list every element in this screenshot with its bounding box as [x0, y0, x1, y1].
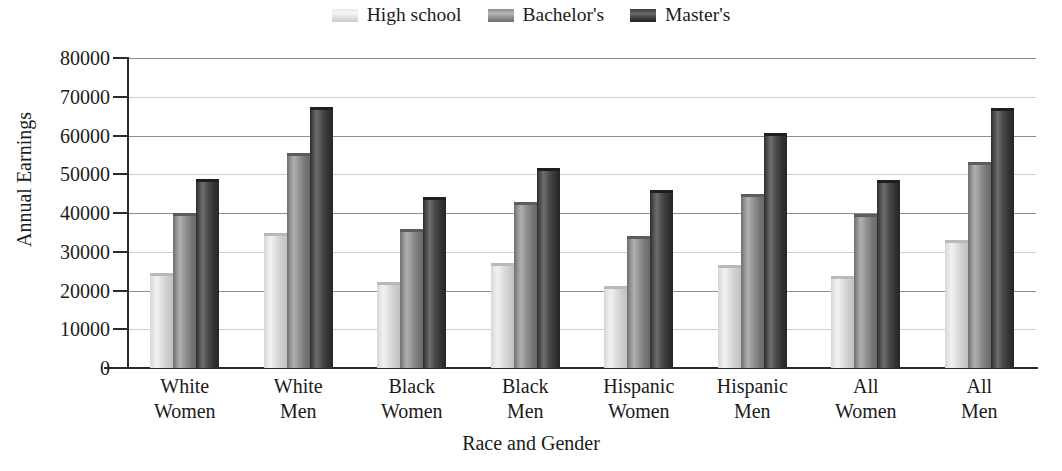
x-category-line1: White	[160, 375, 209, 397]
bar-cap	[945, 240, 968, 243]
legend-label-high-school: High school	[367, 5, 462, 25]
bar-cap	[150, 273, 173, 276]
bar-group	[923, 58, 1037, 368]
x-axis-title: Race and Gender	[0, 432, 1062, 455]
x-category-label: WhiteMen	[242, 374, 356, 430]
y-axis-title: Annual Earnings	[13, 70, 36, 290]
bar-chart: High school Bachelor's Master's 01000020…	[0, 0, 1062, 471]
bar-hs[interactable]	[491, 263, 514, 368]
legend-item-masters[interactable]: Master's	[630, 5, 730, 25]
x-category-line1: Hispanic	[603, 375, 674, 397]
x-category-label: BlackWomen	[355, 374, 469, 430]
x-category-line2: Men	[696, 399, 810, 424]
bar-group	[582, 58, 696, 368]
x-category-line1: Hispanic	[717, 375, 788, 397]
bar-cap	[854, 214, 877, 217]
bar-cap	[877, 180, 900, 183]
bar-group	[128, 58, 242, 368]
bar-ba[interactable]	[287, 153, 310, 368]
bar-cap	[196, 179, 219, 182]
bar-ma[interactable]	[196, 179, 219, 368]
x-category-line2: Women	[809, 399, 923, 424]
bar-ma[interactable]	[650, 190, 673, 368]
y-tick-mark-50000	[113, 173, 128, 175]
bar-hs[interactable]	[718, 265, 741, 368]
legend-swatch-bachelors	[488, 9, 514, 22]
x-category-label: AllWomen	[809, 374, 923, 430]
x-category-label: HispanicWomen	[582, 374, 696, 430]
bar-cap	[991, 108, 1014, 111]
legend-label-masters: Master's	[665, 5, 730, 25]
bar-ba[interactable]	[627, 236, 650, 368]
x-category-line2: Men	[469, 399, 583, 424]
x-category-line2: Men	[242, 399, 356, 424]
y-tick-mark-0	[113, 367, 128, 369]
x-category-line1: White	[274, 375, 323, 397]
bar-cap	[741, 194, 764, 197]
bar-cap	[718, 265, 741, 268]
bar-cap	[423, 197, 446, 200]
bar-cap	[514, 202, 537, 205]
bar-cap	[650, 190, 673, 193]
x-category-line2: Women	[355, 399, 469, 424]
bar-group	[696, 58, 810, 368]
bar-cap	[604, 286, 627, 289]
legend-item-high-school[interactable]: High school	[332, 5, 462, 25]
legend-label-bachelors: Bachelor's	[523, 5, 605, 25]
x-category-line2: Men	[923, 399, 1037, 424]
bar-ba[interactable]	[968, 162, 991, 368]
bar-ba[interactable]	[741, 194, 764, 368]
bar-ma[interactable]	[310, 107, 333, 368]
bar-hs[interactable]	[264, 233, 287, 368]
bar-hs[interactable]	[377, 282, 400, 368]
x-category-line1: All	[853, 375, 879, 397]
x-category-label: WhiteWomen	[128, 374, 242, 430]
bar-cap	[491, 263, 514, 266]
legend-item-bachelors[interactable]: Bachelor's	[488, 5, 605, 25]
bar-ba[interactable]	[400, 229, 423, 369]
y-tick-mark-40000	[113, 212, 128, 214]
y-tick-mark-60000	[113, 135, 128, 137]
chart-legend: High school Bachelor's Master's	[0, 2, 1062, 28]
bar-hs[interactable]	[604, 286, 627, 368]
bar-ma[interactable]	[423, 197, 446, 368]
bar-ba[interactable]	[173, 213, 196, 368]
bar-ma[interactable]	[877, 180, 900, 368]
x-axis-categories: WhiteWomenWhiteMenBlackWomenBlackMenHisp…	[128, 374, 1036, 430]
x-category-label: AllMen	[923, 374, 1037, 430]
bar-groups	[128, 58, 1036, 368]
x-category-label: BlackMen	[469, 374, 583, 430]
bar-cap	[537, 168, 560, 171]
bar-ma[interactable]	[537, 168, 560, 368]
y-tick-label-10000: 10000	[2, 319, 110, 339]
bar-cap	[831, 276, 854, 279]
bar-group	[469, 58, 583, 368]
y-tick-mark-70000	[113, 96, 128, 98]
bar-hs[interactable]	[945, 240, 968, 368]
x-category-line1: Black	[502, 375, 549, 397]
bar-ma[interactable]	[764, 133, 787, 368]
y-tick-label-80000: 80000	[2, 48, 110, 68]
bar-group	[242, 58, 356, 368]
bar-cap	[400, 229, 423, 232]
bar-hs[interactable]	[150, 273, 173, 368]
y-tick-label-0: 0	[2, 358, 110, 378]
x-category-line1: Black	[388, 375, 435, 397]
bar-cap	[264, 233, 287, 236]
x-category-line2: Women	[128, 399, 242, 424]
bar-hs[interactable]	[831, 276, 854, 368]
y-tick-mark-30000	[113, 251, 128, 253]
x-category-label: HispanicMen	[696, 374, 810, 430]
bar-ma[interactable]	[991, 108, 1014, 368]
bar-cap	[627, 236, 650, 239]
bar-cap	[287, 153, 310, 156]
bar-ba[interactable]	[854, 214, 877, 368]
x-category-line1: All	[966, 375, 992, 397]
bar-cap	[764, 133, 787, 136]
y-tick-mark-80000	[113, 57, 128, 59]
bar-ba[interactable]	[514, 202, 537, 368]
legend-swatch-masters	[630, 9, 656, 22]
bar-group	[355, 58, 469, 368]
y-tick-mark-20000	[113, 290, 128, 292]
bar-cap	[310, 107, 333, 110]
